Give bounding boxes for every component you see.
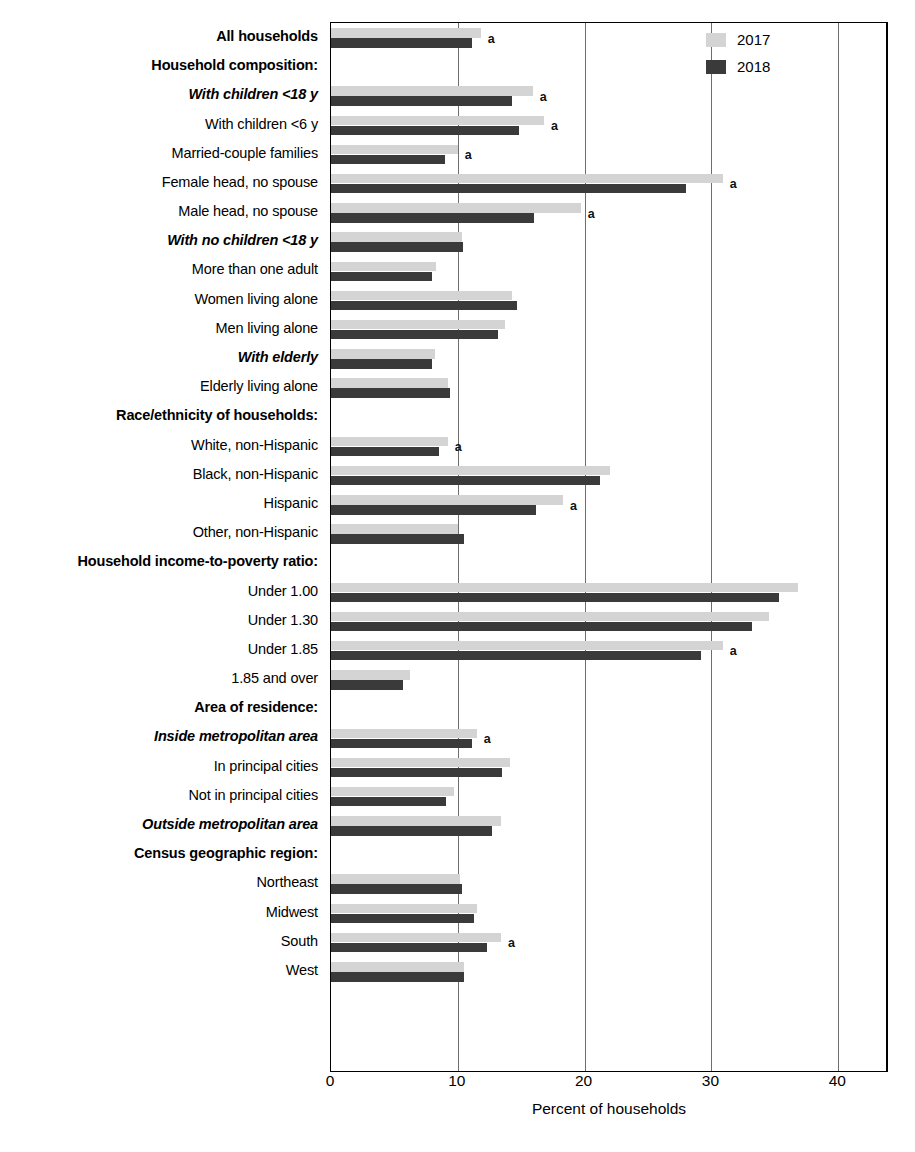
bar-2017: [331, 583, 798, 593]
bar-row: a: [331, 111, 886, 140]
bar-row: [331, 753, 886, 782]
bar-2018: [331, 534, 464, 544]
significance-marker: a: [551, 120, 558, 133]
x-tick-label-0: 0: [326, 1072, 335, 1090]
category-label: With elderly: [0, 343, 325, 372]
bar-row: [331, 607, 886, 636]
category-label: Married-couple families: [0, 139, 325, 168]
bar-2018: [331, 768, 502, 778]
bar-2018: [331, 38, 472, 48]
legend-swatch-2017: [706, 33, 726, 47]
bar-row: [331, 519, 886, 548]
bar-2017: [331, 116, 544, 126]
bar-2018: [331, 972, 464, 982]
significance-marker: a: [484, 733, 491, 746]
category-label: With no children <18 y: [0, 226, 325, 255]
category-label: Black, non-Hispanic: [0, 460, 325, 489]
bar-2017: [331, 378, 448, 388]
category-label: White, non-Hispanic: [0, 431, 325, 460]
bar-2018: [331, 739, 472, 749]
bar-row: [331, 665, 886, 694]
category-label: With children <6 y: [0, 110, 325, 139]
legend: 20172018: [706, 31, 826, 85]
bar-2017: [331, 787, 454, 797]
bar-2018: [331, 330, 498, 340]
bar-2017: [331, 466, 610, 476]
x-tick-label-20: 20: [575, 1072, 592, 1090]
bar-2017: [331, 174, 723, 184]
category-label: Under 1.00: [0, 577, 325, 606]
bar-row: [331, 578, 886, 607]
bar-2017: [331, 28, 481, 38]
bar-2018: [331, 476, 600, 486]
bar-row: a: [331, 490, 886, 519]
bar-row: a: [331, 81, 886, 110]
legend-entry-2018: 2018: [706, 58, 826, 75]
category-label: Other, non-Hispanic: [0, 518, 325, 547]
bar-row: [331, 315, 886, 344]
bar-2018: [331, 242, 463, 252]
bar-2018: [331, 826, 492, 836]
bar-2017: [331, 86, 533, 96]
category-label: Women living alone: [0, 285, 325, 314]
x-tick-label-10: 10: [448, 1072, 465, 1090]
legend-swatch-2018: [706, 60, 726, 74]
category-label: More than one adult: [0, 256, 325, 285]
bar-row: a: [331, 140, 886, 169]
significance-marker: a: [540, 91, 547, 104]
bar-2018: [331, 943, 487, 953]
bar-row: [331, 548, 886, 577]
legend-entry-2017: 2017: [706, 31, 826, 48]
bar-2017: [331, 524, 458, 534]
significance-marker: a: [508, 937, 515, 950]
bar-row: [331, 957, 886, 986]
category-label: Under 1.85: [0, 635, 325, 664]
category-label: Hispanic: [0, 489, 325, 518]
bar-row: a: [331, 169, 886, 198]
bar-2018: [331, 505, 536, 515]
bar-row: [331, 840, 886, 869]
bar-2017: [331, 203, 581, 213]
bar-2017: [331, 495, 563, 505]
bar-row: [331, 869, 886, 898]
bar-2018: [331, 651, 701, 661]
bar-2018: [331, 593, 779, 603]
category-label: Elderly living alone: [0, 372, 325, 401]
category-label: Men living alone: [0, 314, 325, 343]
bar-row: [331, 811, 886, 840]
bar-2017: [331, 349, 435, 359]
bar-row: [331, 694, 886, 723]
bar-row: a: [331, 198, 886, 227]
significance-marker: a: [488, 33, 495, 46]
bar-2017: [331, 904, 477, 914]
bar-2017: [331, 758, 510, 768]
legend-label-2017: 2017: [737, 31, 770, 48]
legend-label-2018: 2018: [737, 58, 770, 75]
x-tick-label-40: 40: [829, 1072, 846, 1090]
category-label: West: [0, 956, 325, 985]
bar-row: [331, 373, 886, 402]
x-axis-ticks: 010203040: [330, 1072, 888, 1098]
bar-2018: [331, 213, 534, 223]
bar-2018: [331, 155, 445, 165]
category-label: Northeast: [0, 868, 325, 897]
bar-row: [331, 286, 886, 315]
x-axis-title: Percent of households: [330, 1100, 888, 1118]
category-label: Midwest: [0, 898, 325, 927]
bar-2017: [331, 729, 477, 739]
bar-2018: [331, 359, 432, 369]
category-label: In principal cities: [0, 752, 325, 781]
significance-marker: a: [465, 149, 472, 162]
bar-row: a: [331, 928, 886, 957]
bar-row: [331, 344, 886, 373]
category-label: Outside metropolitan area: [0, 810, 325, 839]
plot-area: aaaaaaaaaaa 20172018: [330, 22, 888, 1072]
bar-2017: [331, 320, 505, 330]
group-header-label: Area of residence:: [0, 693, 325, 722]
bar-2018: [331, 96, 512, 106]
bar-2017: [331, 874, 460, 884]
category-label: Under 1.30: [0, 606, 325, 635]
bar-2017: [331, 612, 769, 622]
significance-marker: a: [455, 441, 462, 454]
bar-row: [331, 782, 886, 811]
